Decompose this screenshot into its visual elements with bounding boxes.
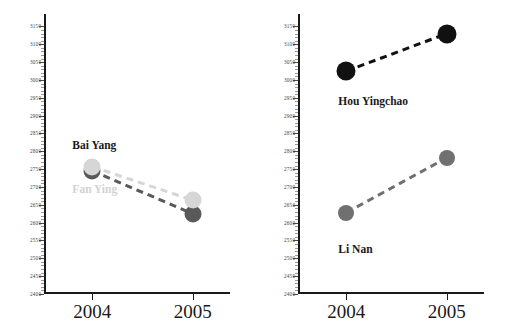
two-panel-line-chart-figure: 2400245025002550260026502700275028002850… bbox=[0, 0, 508, 335]
y-tick-label: 2450 bbox=[30, 273, 37, 279]
series-lines bbox=[298, 14, 484, 294]
series-label: Li Nan bbox=[338, 243, 372, 255]
x-tick-label: 2004 bbox=[327, 301, 365, 323]
y-tick-label: 2500 bbox=[284, 255, 291, 261]
y-tick-label: 2900 bbox=[30, 113, 37, 119]
y-tick-label: 3150 bbox=[284, 23, 291, 29]
y-tick-label: 2700 bbox=[284, 184, 291, 190]
y-tick-label: 2600 bbox=[30, 220, 37, 226]
y-tick-label: 2900 bbox=[284, 113, 291, 119]
y-tick-label: 2950 bbox=[284, 95, 291, 101]
y-tick-label: 2450 bbox=[284, 273, 291, 279]
y-tick-label: 2750 bbox=[284, 166, 291, 172]
y-tick-label: 2850 bbox=[30, 130, 37, 136]
y-tick-label: 3000 bbox=[30, 77, 37, 83]
x-tick-label: 2004 bbox=[73, 301, 111, 323]
y-tick-label: 2750 bbox=[30, 166, 37, 172]
y-tick-label: 2800 bbox=[284, 148, 291, 154]
series-line bbox=[346, 34, 446, 71]
data-point-marker bbox=[84, 158, 101, 175]
x-tick-mark bbox=[193, 294, 194, 300]
series-label: Fan Ying bbox=[72, 183, 117, 195]
y-tick-label: 2850 bbox=[284, 130, 291, 136]
y-tick-label: 2700 bbox=[30, 184, 37, 190]
x-tick-mark bbox=[346, 294, 347, 300]
chart-panel-right: 2400245025002550260026502700275028002850… bbox=[254, 0, 508, 335]
y-tick-label: 2800 bbox=[30, 148, 37, 154]
data-point-marker bbox=[338, 205, 354, 221]
y-tick-label: 3150 bbox=[30, 23, 37, 29]
x-tick-label: 2005 bbox=[174, 301, 212, 323]
y-tick-label: 2950 bbox=[30, 95, 37, 101]
x-tick-mark bbox=[447, 294, 448, 300]
y-tick-label: 2650 bbox=[284, 202, 291, 208]
y-tick-label: 3050 bbox=[284, 59, 291, 65]
plot-area-left: 2400245025002550260026502700275028002850… bbox=[44, 14, 230, 294]
y-tick-label: 3100 bbox=[284, 41, 291, 47]
y-tick-label: 3000 bbox=[284, 77, 291, 83]
y-tick-label: 2400 bbox=[284, 291, 291, 297]
series-lines bbox=[44, 14, 230, 294]
series-label: Bai Yang bbox=[72, 139, 116, 151]
y-tick-label: 2600 bbox=[284, 220, 291, 226]
y-tick-label: 3100 bbox=[30, 41, 37, 47]
series-label: Hou Yingchao bbox=[338, 95, 408, 107]
data-point-marker bbox=[439, 150, 455, 166]
y-tick-label: 2500 bbox=[30, 255, 37, 261]
y-tick-label: 2550 bbox=[284, 237, 291, 243]
data-point-marker bbox=[437, 24, 456, 43]
chart-panel-left: 2400245025002550260026502700275028002850… bbox=[0, 0, 254, 335]
data-point-marker bbox=[184, 192, 201, 209]
y-tick-label: 3050 bbox=[30, 59, 37, 65]
y-tick-label: 2550 bbox=[30, 237, 37, 243]
plot-area-right: 2400245025002550260026502700275028002850… bbox=[298, 14, 484, 294]
x-tick-mark bbox=[92, 294, 93, 300]
y-tick-label: 2650 bbox=[30, 202, 37, 208]
series-line bbox=[346, 158, 446, 213]
data-point-marker bbox=[337, 62, 356, 81]
y-tick-label: 2400 bbox=[30, 291, 37, 297]
x-tick-label: 2005 bbox=[428, 301, 466, 323]
